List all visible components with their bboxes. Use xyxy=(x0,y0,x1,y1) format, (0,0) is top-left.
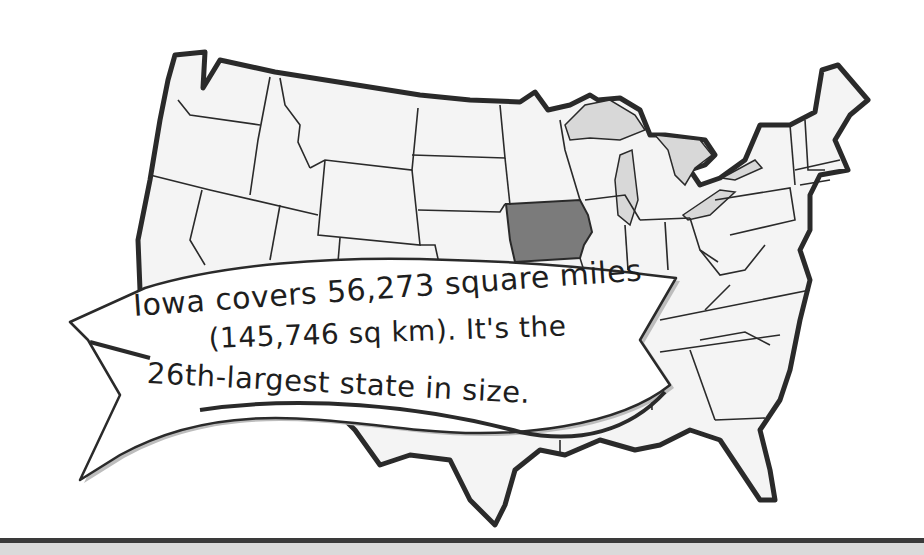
iowa-state xyxy=(506,200,592,262)
bottom-divider-shade xyxy=(0,543,924,555)
